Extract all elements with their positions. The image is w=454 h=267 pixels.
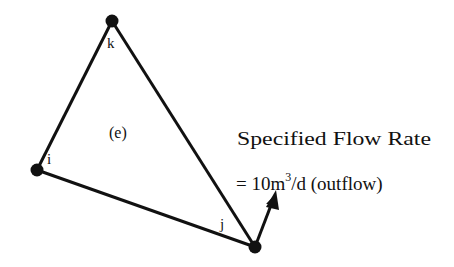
element-label: (e): [109, 124, 127, 142]
edge-k-i: [37, 21, 112, 170]
node-k: [106, 15, 119, 28]
triangle-element: [37, 21, 255, 247]
edge-j-k: [112, 21, 255, 247]
flow-rate-value: = 10m: [236, 173, 285, 194]
edge-i-j: [37, 170, 255, 247]
node-label-k: k: [107, 35, 115, 51]
node-j: [249, 241, 262, 254]
node-label-j: j: [219, 216, 224, 232]
node-i: [31, 164, 44, 177]
flow-rate-unit: /d (outflow): [291, 173, 382, 195]
finite-element-diagram: k i j (e) Specified Flow Rate = 10m3/d (…: [0, 0, 454, 267]
node-label-i: i: [47, 151, 51, 167]
annotation-line1: Specified Flow Rate: [237, 128, 431, 149]
annotation-line2: = 10m3/d (outflow): [236, 170, 383, 195]
